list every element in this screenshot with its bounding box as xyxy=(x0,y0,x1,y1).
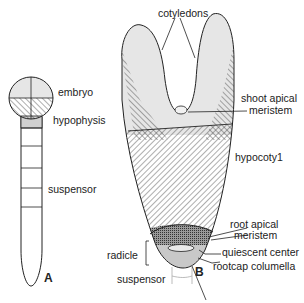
panel-a-letter: A xyxy=(44,271,53,285)
panel-a: embryo hypophysis suspensor A xyxy=(9,77,106,286)
label-radicle: radicle xyxy=(107,249,138,261)
panel-b-letter: B xyxy=(195,265,204,279)
suspensor-b-shape xyxy=(172,267,192,284)
panel-b: cotyledons shoot apical meristem hypocot… xyxy=(107,0,300,300)
label-shoot-apical-2: meristem xyxy=(249,104,292,116)
quiescent-center xyxy=(168,245,194,252)
label-suspensor-b: suspensor xyxy=(117,273,166,285)
label-quiescent-center: quiescent center xyxy=(222,246,300,258)
label-shoot-apical-1: shoot apical xyxy=(241,92,297,104)
label-embryo: embryo xyxy=(58,86,93,98)
label-rootcap-columella: rootcap columella xyxy=(213,260,295,272)
label-hypophysis: hypophysis xyxy=(53,114,106,126)
hypocotyl-region xyxy=(110,124,240,240)
embryo-diagram: embryo hypophysis suspensor A xyxy=(0,0,304,303)
label-root-apical-2: meristem xyxy=(234,229,277,241)
suspensor-a-shape xyxy=(21,117,42,286)
label-hypocotyl: hypocoty1 xyxy=(235,151,283,163)
embryo-proper xyxy=(9,77,53,119)
shoot-apical-meristem xyxy=(175,106,187,114)
label-suspensor-a: suspensor xyxy=(48,183,97,195)
label-cotyledons: cotyledons xyxy=(158,7,208,19)
